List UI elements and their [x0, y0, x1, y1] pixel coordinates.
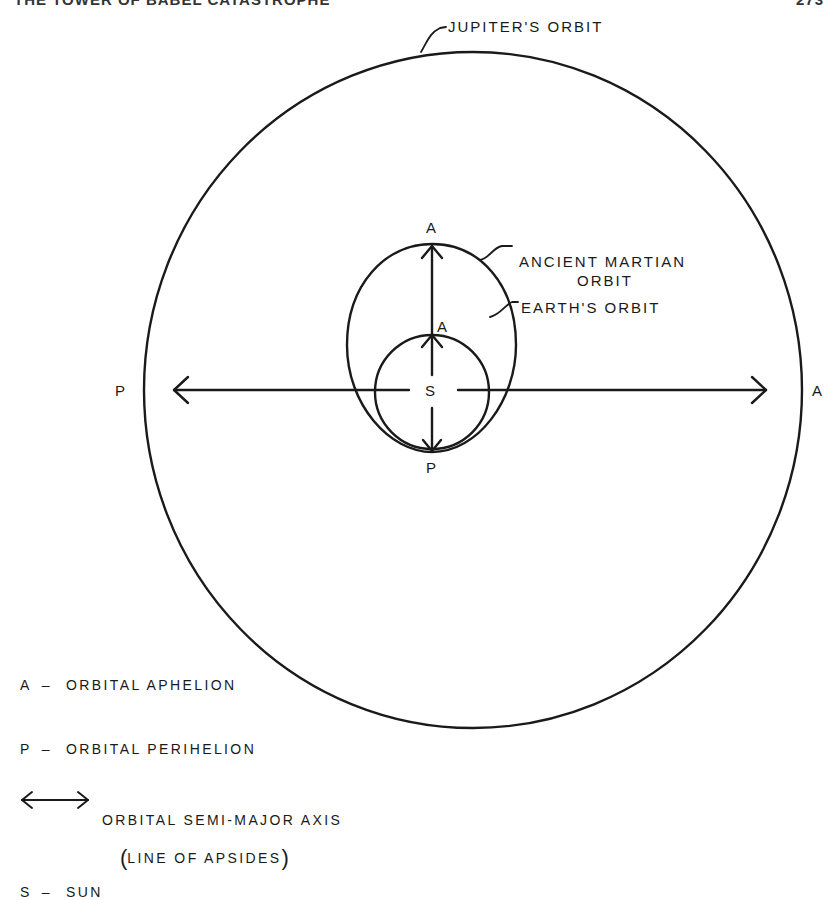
legend-dash: –: [42, 884, 52, 900]
martian-label-leader: [480, 246, 512, 260]
legend-text-line-of-apsides: LINE OF APSIDES: [127, 850, 281, 866]
perihelion-bottom-label: P: [426, 459, 438, 476]
jupiter-label-leader: [421, 27, 446, 52]
legend-key-a: A: [20, 677, 32, 693]
ancient-martian-orbit-label-line1: ANCIENT MARTIAN: [519, 253, 686, 270]
legend-text-semi-major-axis: ORBITAL SEMI-MAJOR AXIS: [102, 812, 342, 828]
legend-item-line-of-apsides: (LINE OF APSIDES): [120, 845, 289, 871]
legend-key-s: S: [20, 884, 32, 900]
legend-item-semi-major-axis: ORBITAL SEMI-MAJOR AXIS: [102, 812, 342, 828]
sun-label: S: [425, 382, 437, 399]
legend-item-sun: S–SUN: [20, 884, 103, 900]
legend-text-sun: SUN: [66, 884, 103, 900]
ancient-martian-orbit-label-line2: ORBIT: [577, 272, 633, 289]
legend-item-perihelion: P–ORBITAL PERIHELION: [20, 741, 256, 757]
orbit-diagram: [0, 0, 837, 900]
legend-item-aphelion: A–ORBITAL APHELION: [20, 677, 237, 693]
legend-dash: –: [42, 677, 52, 693]
earth-orbit-label: EARTH'S ORBIT: [521, 299, 660, 316]
martian-aphelion-label: A: [426, 219, 438, 236]
legend-text-aphelion: ORBITAL APHELION: [66, 677, 237, 693]
legend-key-p: P: [20, 741, 32, 757]
jupiter-orbit-label: JUPITER'S ORBIT: [448, 18, 603, 35]
jupiter-aphelion-label: A: [812, 382, 824, 399]
paren-close: ): [282, 845, 289, 870]
earth-aphelion-label: A: [437, 318, 449, 335]
legend-text-perihelion: ORBITAL PERIHELION: [66, 741, 256, 757]
jupiter-perihelion-label: P: [115, 382, 127, 399]
legend-dash: –: [42, 741, 52, 757]
